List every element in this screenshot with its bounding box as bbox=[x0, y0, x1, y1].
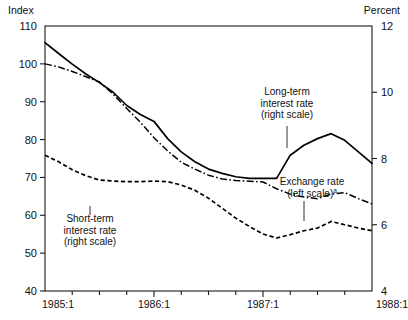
left-axis-tick-label: 90 bbox=[25, 96, 37, 108]
left-axis-tick-label: 60 bbox=[25, 209, 37, 221]
left-axis-tick-label: 40 bbox=[25, 285, 37, 297]
x-axis-tick-label: 1985:1 bbox=[42, 298, 74, 310]
x-axis-tick-label: 1987:1 bbox=[247, 298, 279, 310]
annotation-line: Long-term bbox=[264, 86, 310, 97]
left-axis-tick-label: 50 bbox=[25, 247, 37, 259]
right-axis-tick-label: 6 bbox=[381, 219, 387, 231]
left-axis-tick-label: 80 bbox=[25, 134, 37, 146]
right-axis-tick-label: 10 bbox=[381, 86, 393, 98]
long-term-annotation: Long-terminterest rate(right scale) bbox=[261, 86, 314, 148]
left-axis-tick-label: 100 bbox=[19, 58, 37, 70]
left-axis-title: Index bbox=[8, 4, 34, 16]
annotation-line: (left scale)a bbox=[287, 187, 337, 199]
annotation-line: (right scale) bbox=[261, 109, 313, 120]
left-axis-tick-label: 70 bbox=[25, 171, 37, 183]
annotation-line: interest rate bbox=[261, 98, 314, 109]
right-axis-tick-label: 8 bbox=[381, 153, 387, 165]
left-axis-tick-label: 110 bbox=[19, 20, 37, 32]
chart-container: IndexPercent1101009080706050401210864198… bbox=[0, 0, 408, 320]
economic-indicators-line-chart: IndexPercent1101009080706050401210864198… bbox=[0, 0, 408, 320]
annotation-line: (right scale) bbox=[64, 236, 116, 247]
series-line bbox=[45, 43, 372, 179]
right-axis-title: Percent bbox=[364, 4, 400, 16]
plot-frame bbox=[45, 26, 372, 291]
x-axis-tick-label: 1988:1 bbox=[376, 298, 408, 310]
right-axis-tick-label: 12 bbox=[381, 20, 393, 32]
right-axis-tick-label: 4 bbox=[381, 285, 387, 297]
annotation-line: interest rate bbox=[64, 225, 117, 236]
short-term-annotation: Short-terminterest rate(right scale) bbox=[64, 206, 117, 247]
x-axis-tick-label: 1986:1 bbox=[138, 298, 170, 310]
annotation-line: Exchange rate bbox=[280, 176, 345, 187]
